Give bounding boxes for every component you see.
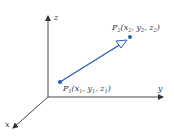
p1-label: P1(x1, y1, z1)	[62, 84, 111, 94]
x-axis-label: x	[5, 120, 10, 129]
point-p1	[58, 80, 62, 84]
point-p2	[128, 35, 132, 39]
vector-line	[60, 44, 121, 82]
y-axis-label: y	[157, 84, 163, 93]
x-axis	[13, 97, 48, 128]
p2-label: P2(x2, y2, z2)	[111, 23, 160, 33]
z-axis-label: z	[53, 13, 59, 22]
vector-diagram: z y x P1(x1, y1, z1) P2(x2, y2, z2)	[0, 0, 174, 139]
